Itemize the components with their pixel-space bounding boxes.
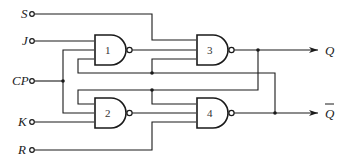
- nand-gate-1: 1: [95, 35, 132, 65]
- terminal-cp: [30, 79, 35, 84]
- input-label-j: J: [22, 33, 29, 48]
- input-s: S: [21, 6, 34, 21]
- terminal-j: [30, 39, 35, 44]
- junction-cp: [61, 79, 65, 83]
- nand-gate-3: 3: [197, 35, 234, 65]
- wires: [35, 14, 319, 150]
- input-label-r: R: [17, 142, 26, 157]
- gate-label-4: 4: [207, 107, 213, 119]
- input-cp: CP: [12, 73, 34, 88]
- output-qbar: Q: [325, 104, 335, 121]
- nand-gate-2: 2: [95, 98, 132, 128]
- jk-flip-flop-diagram: S J CP K R: [0, 0, 363, 164]
- terminal-k: [30, 120, 35, 125]
- input-j: J: [22, 33, 34, 48]
- input-label-s: S: [21, 6, 28, 21]
- terminal-s: [30, 12, 35, 17]
- input-k: K: [17, 114, 34, 129]
- terminal-r: [30, 148, 35, 153]
- gate-label-2: 2: [105, 107, 111, 119]
- output-label-qbar: Q: [325, 106, 335, 121]
- wire-q-to-g4: [152, 90, 196, 104]
- junction-q-out: [256, 48, 260, 52]
- junction-qbar: [150, 71, 154, 75]
- wire-qbar-to-g3: [152, 59, 196, 73]
- output-label-q: Q: [325, 43, 335, 58]
- input-label-cp: CP: [12, 73, 29, 88]
- input-r: R: [17, 142, 34, 157]
- nand-gate-4: 4: [197, 98, 234, 128]
- gate-label-1: 1: [105, 44, 111, 56]
- gate-label-3: 3: [207, 44, 213, 56]
- junction-qbar-out: [273, 111, 277, 115]
- input-label-k: K: [17, 114, 28, 129]
- junction-q: [150, 88, 154, 92]
